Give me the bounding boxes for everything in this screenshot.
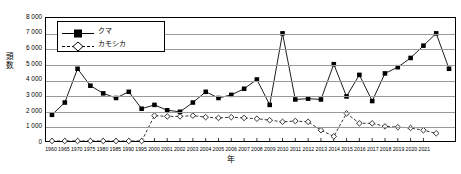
x-axis-tick-label: 2008 <box>251 146 263 152</box>
x-axis-tick-label: 1970 <box>71 146 83 152</box>
x-axis-tick-label: 2019 <box>393 146 405 152</box>
x-axis-title: 年 <box>0 155 461 165</box>
x-axis-tick-label: 1960 <box>45 146 57 152</box>
x-axis-tick-label: 1980 <box>97 146 109 152</box>
x-axis-tick-label: 2011 <box>290 146 301 152</box>
chart-container: 頭 数 01 0002 0003 0004 0005 0006 0007 000… <box>0 0 461 174</box>
x-axis-tick-label: 1985 <box>110 146 122 152</box>
x-axis-tick-label: 2021 <box>419 146 431 152</box>
x-axis-tick-label: 2004 <box>200 146 212 152</box>
x-axis-tick-label: 1965 <box>58 146 70 152</box>
x-axis-tick-label: 2001 <box>161 146 173 152</box>
x-axis-tick-label: 2018 <box>380 146 392 152</box>
x-axis-ticks: 1960196519701975198019851990199520002001… <box>0 0 461 174</box>
x-axis-tick-label: 2007 <box>238 146 250 152</box>
x-axis-tick-label: 2009 <box>264 146 276 152</box>
x-axis-tick-label: 2020 <box>406 146 418 152</box>
x-axis-tick-label: 2003 <box>187 146 199 152</box>
x-axis-tick-label: 1995 <box>135 146 147 152</box>
x-axis-tick-label: 2005 <box>213 146 225 152</box>
x-axis-tick-label: 2016 <box>354 146 366 152</box>
x-axis-tick-label: 1990 <box>122 146 134 152</box>
x-axis-tick-label: 2015 <box>341 146 353 152</box>
x-axis-tick-label: 2013 <box>316 146 328 152</box>
x-axis-tick-label: 2010 <box>277 146 289 152</box>
x-axis-tick-label: 2006 <box>225 146 237 152</box>
x-axis-tick-label: 2012 <box>303 146 315 152</box>
x-axis-tick-label: 2000 <box>148 146 160 152</box>
x-axis-tick-label: 2014 <box>328 146 340 152</box>
x-axis-tick-label: 2017 <box>367 146 379 152</box>
x-axis-tick-label: 1975 <box>84 146 96 152</box>
x-axis-tick-label: 2002 <box>174 146 186 152</box>
